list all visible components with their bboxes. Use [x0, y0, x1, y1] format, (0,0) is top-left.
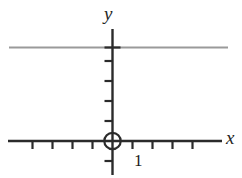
y-axis-label: y [104, 4, 112, 23]
x-axis-label: x [226, 128, 234, 147]
coordinate-plane-figure: y x 1 [0, 0, 242, 178]
plot-canvas [0, 0, 242, 178]
unit-tick-label: 1 [134, 152, 143, 169]
